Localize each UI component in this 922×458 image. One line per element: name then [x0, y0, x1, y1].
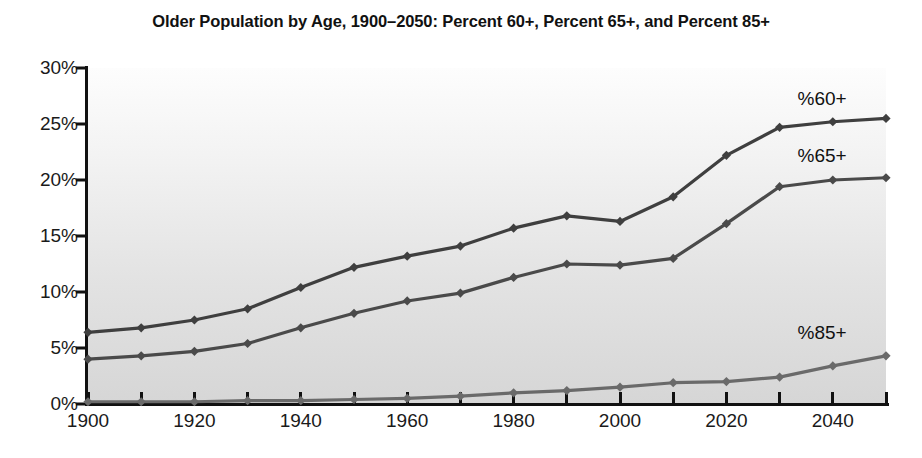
data-point-marker: [775, 373, 784, 382]
data-point-marker: [83, 328, 92, 337]
series-label-60: %60+: [798, 88, 847, 110]
data-point-marker: [562, 386, 571, 395]
series-label-85: %85+: [798, 322, 847, 344]
data-point-marker: [349, 395, 358, 404]
data-point-marker: [190, 315, 199, 324]
data-point-marker: [828, 175, 837, 184]
chart-figure: Older Population by Age, 1900–2050: Perc…: [0, 0, 922, 458]
data-point-marker: [349, 309, 358, 318]
data-point-marker: [190, 347, 199, 356]
data-point-marker: [296, 323, 305, 332]
data-point-marker: [403, 252, 412, 261]
data-point-marker: [881, 173, 890, 182]
data-point-marker: [828, 117, 837, 126]
data-point-marker: [562, 259, 571, 268]
data-point-marker: [509, 388, 518, 397]
data-point-marker: [137, 323, 146, 332]
series-85: [83, 351, 890, 406]
data-point-marker: [881, 351, 890, 360]
data-point-marker: [296, 283, 305, 292]
data-point-marker: [615, 383, 624, 392]
data-point-marker: [669, 378, 678, 387]
series-65: [83, 173, 890, 364]
data-point-marker: [296, 396, 305, 405]
series-line: [88, 356, 886, 402]
data-point-marker: [456, 289, 465, 298]
data-point-marker: [83, 397, 92, 406]
data-point-marker: [137, 351, 146, 360]
series-layer: [0, 0, 922, 458]
data-point-marker: [562, 211, 571, 220]
data-point-marker: [615, 261, 624, 270]
data-point-marker: [509, 273, 518, 282]
data-point-marker: [190, 397, 199, 406]
series-label-65: %65+: [798, 145, 847, 167]
series-line: [88, 118, 886, 332]
data-point-marker: [83, 355, 92, 364]
data-point-marker: [509, 224, 518, 233]
data-point-marker: [881, 114, 890, 123]
data-point-marker: [349, 263, 358, 272]
data-point-marker: [722, 377, 731, 386]
data-point-marker: [243, 304, 252, 313]
data-point-marker: [828, 361, 837, 370]
data-point-marker: [456, 392, 465, 401]
series-60: [83, 114, 890, 337]
data-point-marker: [243, 339, 252, 348]
data-point-marker: [403, 296, 412, 305]
data-point-marker: [456, 241, 465, 250]
series-line: [88, 178, 886, 359]
data-point-marker: [243, 396, 252, 405]
data-point-marker: [137, 397, 146, 406]
data-point-marker: [403, 394, 412, 403]
